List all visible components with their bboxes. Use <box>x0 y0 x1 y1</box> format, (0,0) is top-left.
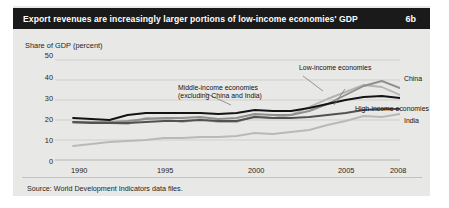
gridlines <box>55 60 400 160</box>
x-tick-2005: 2005 <box>338 166 354 175</box>
annotation-middle-income-line2: (excluding China and India) <box>178 92 262 100</box>
y-tick-0: 0 <box>49 158 53 166</box>
annotation-india: India <box>404 117 419 125</box>
line-chart-svg <box>55 58 400 162</box>
y-tick-50: 50 <box>45 52 53 60</box>
y-axis-tick-labels: 50 40 30 20 10 0 <box>27 52 53 168</box>
annotation-china: China <box>404 75 422 83</box>
figure-number-badge: 6b <box>405 14 430 24</box>
footer-divider <box>22 177 422 178</box>
y-tick-20: 20 <box>45 116 53 124</box>
annotation-middle-income-line1: Middle-income economies <box>178 84 262 92</box>
y-tick-10: 10 <box>45 137 53 145</box>
page-title: Export revenues are increasingly larger … <box>13 14 358 24</box>
figure-title-bar: Export revenues are increasingly larger … <box>13 8 430 29</box>
annotation-high-income: High-income economies <box>355 105 429 113</box>
x-tick-2008: 2008 <box>390 166 406 175</box>
x-tick-2000: 2000 <box>248 166 264 175</box>
x-tick-1990: 1990 <box>71 166 87 175</box>
x-tick-1995: 1995 <box>157 166 173 175</box>
annotation-low-income: Low-income economies <box>299 64 371 72</box>
annotation-middle-income: Middle-income economies (excluding China… <box>178 84 262 100</box>
chart-plot-area <box>55 58 400 162</box>
y-tick-40: 40 <box>45 74 53 82</box>
y-axis-title: Share of GDP (percent) <box>25 41 103 50</box>
source-note: Source: World Development Indicators dat… <box>27 184 183 193</box>
figure-root: Export revenues are increasingly larger … <box>0 0 449 208</box>
y-tick-30: 30 <box>45 95 53 103</box>
